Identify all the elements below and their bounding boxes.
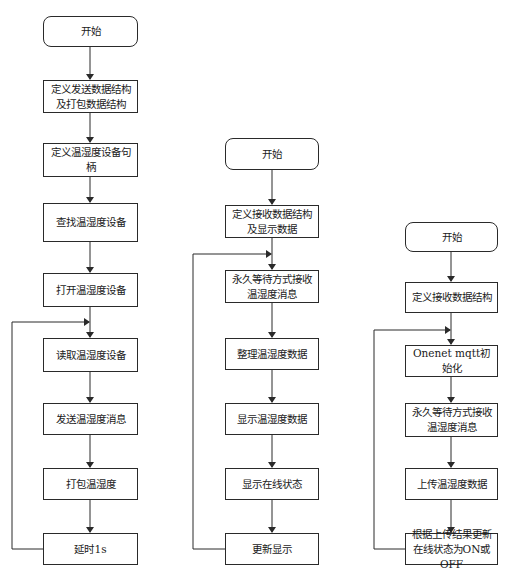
flow1-step-define-device-handle: 定义温湿度设备句柄 (43, 143, 138, 177)
flow1-step-pack-data: 打包温湿度 (43, 468, 138, 500)
flow3-step-wait-message: 永久等待方式接收温湿度消息 (405, 403, 498, 437)
flow2-step-define-recv-struct: 定义接收数据结构及显示数据 (225, 205, 319, 238)
flow1-start: 开始 (43, 16, 138, 47)
flow2-step-update-display: 更新显示 (225, 533, 319, 565)
flow2-step-wait-message: 永久等待方式接收温湿度消息 (225, 270, 319, 303)
flow3-step-update-online-status: 根据上传结果更新在线状态为ON或OFF (405, 533, 498, 565)
flow3-step-mqtt-init: Onenet mqtt初始化 (405, 345, 498, 377)
flow1-step-define-send-struct: 定义发送数据结构及打包数据结构 (43, 80, 138, 113)
flow2-step-show-online: 显示在线状态 (225, 468, 319, 500)
flow1-step-find-device: 查找温湿度设备 (43, 203, 138, 242)
flow2-start: 开始 (225, 138, 319, 170)
flow3-start: 开始 (405, 222, 498, 252)
flow1-step-delay: 延时1s (43, 533, 138, 565)
flow2-step-process-data: 整理温湿度数据 (225, 338, 319, 370)
flow2-step-show-data: 显示温湿度数据 (225, 403, 319, 435)
flow1-step-read-device: 读取温湿度设备 (43, 338, 138, 372)
flow1-step-send-message: 发送温湿度消息 (43, 403, 138, 435)
flow3-step-upload-data: 上传温湿度数据 (405, 468, 498, 500)
flow1-step-open-device: 打开温湿度设备 (43, 273, 138, 307)
flow3-step-define-recv-struct: 定义接收数据结构 (405, 282, 498, 313)
